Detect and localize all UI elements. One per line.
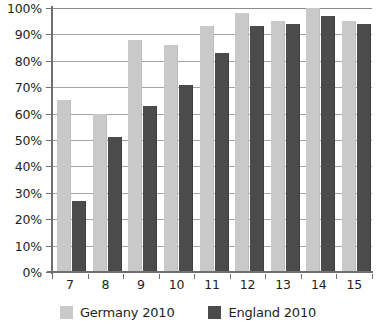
- bar-england-13[interactable]: [286, 24, 300, 272]
- bar-group: [232, 8, 263, 272]
- legend-item-germany[interactable]: Germany 2010: [60, 305, 175, 320]
- x-axis-tick: [265, 274, 266, 279]
- legend-label-germany: Germany 2010: [80, 305, 175, 320]
- x-axis-tick-label: 11: [204, 277, 220, 292]
- y-axis-tick-label: 20%: [15, 212, 42, 227]
- bar-germany-7[interactable]: [57, 100, 71, 272]
- bar-germany-8[interactable]: [93, 114, 107, 272]
- y-axis-tick-label: 40%: [15, 159, 42, 174]
- x-axis-tick-label: 13: [275, 277, 291, 292]
- bar-england-15[interactable]: [357, 24, 371, 272]
- x-axis-tick: [230, 274, 231, 279]
- x-axis-tick-label: 9: [137, 277, 145, 292]
- bar-germany-13[interactable]: [271, 21, 285, 272]
- y-axis-tick-label: 70%: [15, 80, 42, 95]
- bar-group: [125, 8, 156, 272]
- x-axis-tick-label: 8: [101, 277, 109, 292]
- x-axis-tick: [159, 274, 160, 279]
- bar-group: [303, 8, 334, 272]
- bar-group: [268, 8, 299, 272]
- y-axis-tick-label: 10%: [15, 238, 42, 253]
- y-axis-tick-label: 90%: [15, 27, 42, 42]
- bars-layer: [52, 8, 372, 272]
- x-axis-tick-label: 10: [169, 277, 185, 292]
- y-axis-tick-label: 100%: [7, 1, 42, 16]
- bar-england-14[interactable]: [321, 16, 335, 272]
- x-axis: 789101112131415: [52, 274, 372, 300]
- y-axis-tick-label: 50%: [15, 133, 42, 148]
- bar-england-11[interactable]: [215, 53, 229, 272]
- plot-area: [52, 8, 372, 272]
- bar-group: [197, 8, 228, 272]
- chart-legend: Germany 2010 England 2010: [0, 300, 376, 324]
- x-axis-tick-label: 14: [311, 277, 327, 292]
- y-axis: 0%10%20%30%40%50%60%70%80%90%100%: [0, 0, 48, 328]
- y-axis-tick-label: 60%: [15, 106, 42, 121]
- y-axis-tick-label: 30%: [15, 185, 42, 200]
- x-axis-tick: [301, 274, 302, 279]
- bar-group: [339, 8, 370, 272]
- bar-group: [90, 8, 121, 272]
- legend-swatch-england-icon: [208, 306, 221, 319]
- x-axis-tick: [372, 274, 373, 279]
- legend-swatch-germany-icon: [60, 306, 73, 319]
- x-axis-tick: [52, 274, 53, 279]
- bar-germany-10[interactable]: [164, 45, 178, 272]
- x-axis-tick: [194, 274, 195, 279]
- bar-germany-9[interactable]: [128, 40, 142, 272]
- bar-england-7[interactable]: [72, 201, 86, 272]
- bar-england-8[interactable]: [108, 137, 122, 272]
- y-axis-line: [51, 6, 53, 274]
- bar-england-12[interactable]: [250, 26, 264, 272]
- x-axis-tick: [336, 274, 337, 279]
- x-axis-tick-label: 7: [66, 277, 74, 292]
- bar-group: [54, 8, 85, 272]
- bar-chart: 0%10%20%30%40%50%60%70%80%90%100% 789101…: [0, 0, 376, 328]
- x-axis-tick-label: 15: [346, 277, 362, 292]
- bar-group: [161, 8, 192, 272]
- bar-germany-14[interactable]: [306, 8, 320, 272]
- x-axis-tick-label: 12: [240, 277, 256, 292]
- x-axis-tick: [88, 274, 89, 279]
- bar-england-9[interactable]: [143, 106, 157, 272]
- bar-england-10[interactable]: [179, 85, 193, 272]
- bar-germany-12[interactable]: [235, 13, 249, 272]
- bar-germany-11[interactable]: [200, 26, 214, 272]
- legend-label-england: England 2010: [228, 305, 316, 320]
- legend-item-england[interactable]: England 2010: [208, 305, 316, 320]
- x-axis-line: [47, 271, 373, 273]
- y-axis-tick-label: 80%: [15, 53, 42, 68]
- x-axis-tick: [123, 274, 124, 279]
- bar-germany-15[interactable]: [342, 21, 356, 272]
- y-axis-tick-label: 0%: [23, 265, 42, 280]
